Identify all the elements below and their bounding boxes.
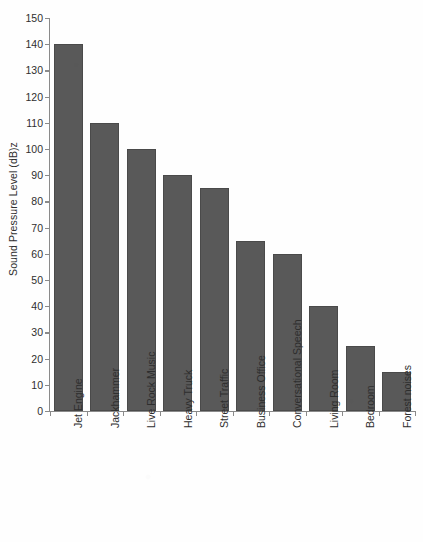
y-axis-tick-label: 20 xyxy=(31,353,43,365)
x-axis-tick-label-text: Live Rock Music xyxy=(145,352,157,428)
y-axis-tick-mark xyxy=(45,332,50,333)
y-axis-tick-mark xyxy=(45,97,50,98)
y-axis-tick-label: 140 xyxy=(25,38,43,50)
y-axis-tick-label: 10 xyxy=(31,379,43,391)
y-axis-tick-label: 110 xyxy=(26,117,43,129)
y-axis-tick-label: 100 xyxy=(25,143,43,155)
y-axis-tick-label: 120 xyxy=(25,91,43,103)
y-axis-tick-mark xyxy=(45,123,50,124)
y-axis-tick-label: 80 xyxy=(31,195,43,207)
x-axis-tick-label-text: Living Room xyxy=(328,370,340,428)
x-axis-tick-label-text: Street Traffic xyxy=(218,369,230,428)
y-axis-tick-mark xyxy=(45,175,50,176)
y-axis-tick-mark xyxy=(45,359,50,360)
x-axis-tick-label-text: Business Office xyxy=(255,355,267,428)
x-axis-tick-label-text: Jackhammer xyxy=(109,368,121,428)
x-axis-tick-label-text: Bedroom xyxy=(364,385,376,428)
x-axis-tick-label-text: Conversational Speech xyxy=(291,319,303,428)
y-axis-tick-label: 40 xyxy=(31,300,43,312)
y-axis-tick-label: 60 xyxy=(31,248,43,260)
bar-chart-figure: Sound Pressure Level (dB)z 0102030405060… xyxy=(0,0,423,542)
y-axis-tick-mark xyxy=(45,385,50,386)
y-axis-title: Sound Pressure Level (dB)z xyxy=(0,0,26,418)
bar xyxy=(54,44,83,411)
y-axis-tick-mark xyxy=(45,70,50,71)
x-axis-tick-mark xyxy=(415,411,416,416)
x-axis-tick-label-text: Forest noises xyxy=(401,365,413,428)
y-axis-tick-label: 30 xyxy=(31,326,43,338)
y-axis-tick-mark xyxy=(45,201,50,202)
y-axis-tick-mark xyxy=(45,254,50,255)
x-axis-tick-labels: Jet EngineJackhammerLive Rock MusicHeavy… xyxy=(50,416,415,540)
y-axis-title-text: Sound Pressure Level (dB)z xyxy=(7,142,19,276)
y-axis-tick-mark xyxy=(45,44,50,45)
y-axis-tick-label: 0 xyxy=(37,405,43,417)
y-axis-tick-mark xyxy=(45,228,50,229)
y-axis-tick-label: 90 xyxy=(31,169,43,181)
x-axis-tick-label-text: Heavy Truck xyxy=(182,370,194,428)
plot-area: 0102030405060708090100110120130140150 xyxy=(50,18,415,411)
y-axis-tick-label: 150 xyxy=(25,12,43,24)
y-axis-tick-label: 130 xyxy=(25,64,43,76)
y-axis-tick-label: 50 xyxy=(31,274,43,286)
y-axis-tick-mark xyxy=(45,18,50,19)
y-axis-tick-mark xyxy=(45,149,50,150)
y-axis-tick-label: 70 xyxy=(31,222,43,234)
x-axis-tick-label-text: Jet Engine xyxy=(72,378,84,428)
y-axis-tick-mark xyxy=(45,280,50,281)
y-axis-tick-mark xyxy=(45,306,50,307)
